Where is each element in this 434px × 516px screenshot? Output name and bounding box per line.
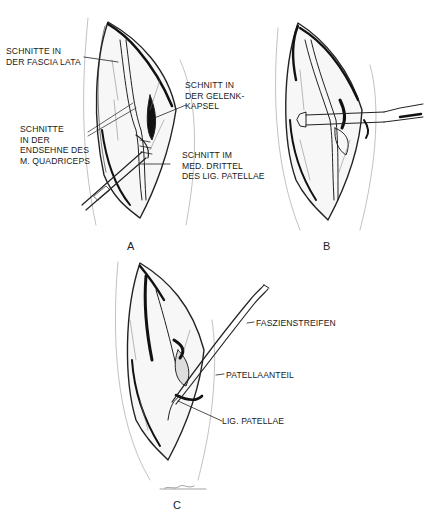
label-line: PATELLAANTEIL [226,370,294,381]
panel-b-drawing [276,23,423,230]
label-line: SCHNITTE [20,124,90,135]
panel-letter-a: A [127,240,134,252]
label-line: IN DER [20,135,90,146]
label-schnitt-lig-patellae: SCHNITT IM MED. DRITTEL DES LIG. PATELLA… [182,150,265,182]
label-schnitt-gelenkkapsel: SCHNITT IN DER GELENK- KAPSEL [185,80,244,112]
label-line: DES LIG. PATELLAE [182,171,265,182]
label-line: SCHNITT IN [185,80,244,91]
label-line: DER FASCIA LATA [6,57,81,68]
label-line: LIG. PATELLAE [222,416,284,427]
label-line: DER GELENK- [185,91,244,102]
label-line: MED. DRITTEL [182,161,265,172]
label-schnitte-fascia-lata: SCHNITTE IN DER FASCIA LATA [6,46,81,67]
surgical-illustration: SCHNITTE IN DER FASCIA LATA SCHNITT IN D… [0,0,434,516]
label-patellaanteil: PATELLAANTEIL [226,370,294,381]
label-line: KAPSEL [185,101,244,112]
label-line: ENDSEHNE DES [20,145,90,156]
panel-a-drawing [82,18,195,225]
panel-letter-c: C [173,499,181,511]
panel-letter-b: B [323,240,330,252]
label-line: SCHNITTE IN [6,46,81,57]
label-line: SCHNITT IM [182,150,265,161]
label-schnitte-endsehne-quadriceps: SCHNITTE IN DER ENDSEHNE DES M. QUADRICE… [20,124,90,166]
label-lig-patellae: LIG. PATELLAE [222,416,284,427]
label-line: FASZIENSTREIFEN [256,318,336,329]
label-faszienstreifen: FASZIENSTREIFEN [256,318,336,329]
label-line: M. QUADRICEPS [20,156,90,167]
illustration-artwork [0,0,434,516]
